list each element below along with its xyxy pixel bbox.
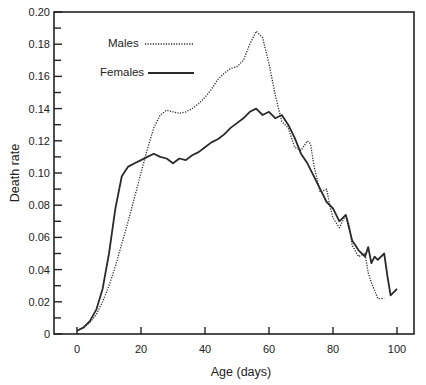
x-tick-label: 20 bbox=[135, 343, 147, 355]
death-rate-chart: 00.020.040.060.080.100.120.140.160.180.2… bbox=[0, 0, 426, 385]
y-tick-label: 0.18 bbox=[29, 38, 50, 50]
legend: Males Females bbox=[100, 37, 194, 78]
y-axis: 00.020.040.060.080.100.120.140.160.180.2… bbox=[29, 6, 62, 340]
y-tick-label: 0.14 bbox=[29, 103, 50, 115]
x-tick-label: 60 bbox=[263, 343, 275, 355]
legend-label-females: Females bbox=[100, 66, 144, 78]
y-tick-label: 0.12 bbox=[29, 135, 50, 147]
plot-frame bbox=[54, 12, 414, 334]
x-axis-title: Age (days) bbox=[211, 365, 271, 379]
y-tick-label: 0.20 bbox=[29, 6, 50, 18]
x-tick-label: 0 bbox=[74, 343, 80, 355]
y-axis-title: Death rate bbox=[8, 144, 22, 202]
y-tick-label: 0.02 bbox=[29, 296, 50, 308]
y-tick-label: 0.06 bbox=[29, 231, 50, 243]
x-tick-label: 80 bbox=[327, 343, 339, 355]
y-tick-label: 0.08 bbox=[29, 199, 50, 211]
plot-border bbox=[54, 12, 414, 334]
y-tick-label: 0.16 bbox=[29, 70, 50, 82]
y-tick-label: 0.04 bbox=[29, 264, 50, 276]
x-tick-label: 100 bbox=[388, 343, 406, 355]
x-axis: 020406080100 bbox=[74, 327, 406, 355]
y-tick-label: 0.10 bbox=[29, 167, 50, 179]
legend-label-males: Males bbox=[108, 37, 139, 49]
x-tick-label: 40 bbox=[199, 343, 211, 355]
y-tick-label: 0 bbox=[44, 328, 50, 340]
series-line-females bbox=[77, 109, 397, 331]
